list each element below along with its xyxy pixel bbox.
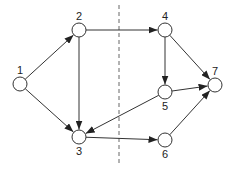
edge-5-to-3-arrow xyxy=(86,95,159,133)
edge-6-to-7-arrow xyxy=(170,91,210,135)
node-2: 2 xyxy=(72,10,86,37)
node-3: 3 xyxy=(72,130,86,157)
node-circle xyxy=(13,77,27,91)
node-label: 4 xyxy=(162,10,168,22)
node-circle xyxy=(72,23,86,37)
edge-1-to-3-arrow xyxy=(25,89,73,132)
node-label: 5 xyxy=(162,100,168,112)
node-circle xyxy=(208,78,222,92)
edge-1-to-2-arrow xyxy=(25,35,73,79)
node-7: 7 xyxy=(208,65,222,92)
node-label: 3 xyxy=(76,145,82,157)
node-label: 1 xyxy=(17,64,23,76)
node-label: 7 xyxy=(212,65,218,77)
node-4: 4 xyxy=(158,10,172,37)
node-1: 1 xyxy=(13,64,27,91)
node-label: 6 xyxy=(162,148,168,160)
node-circle xyxy=(158,85,172,99)
node-5: 5 xyxy=(158,85,172,112)
node-circle xyxy=(72,130,86,144)
edge-3-to-6-arrow xyxy=(86,137,158,139)
edge-4-to-7-arrow xyxy=(170,35,210,79)
node-circle xyxy=(158,133,172,147)
nodes: 1234567 xyxy=(13,10,222,160)
edges xyxy=(25,30,210,140)
node-6: 6 xyxy=(158,133,172,160)
node-circle xyxy=(158,23,172,37)
network-diagram: 1234567 xyxy=(0,0,235,171)
node-label: 2 xyxy=(76,10,82,22)
edge-5-to-7-arrow xyxy=(172,86,208,91)
